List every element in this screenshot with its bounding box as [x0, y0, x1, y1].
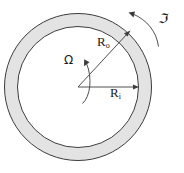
inner-radius-label: Ri [110, 86, 121, 99]
annulus-diagram-svg [0, 0, 184, 173]
rotation-arc-arrowhead [129, 12, 136, 18]
angular-velocity-label: Ω [64, 54, 73, 66]
rotation-symbol-label: ℑ [158, 12, 167, 25]
inner-radius-symbol: R [110, 85, 119, 100]
inner-radius-subscript: i [119, 92, 121, 101]
outer-radius-subscript: o [106, 41, 110, 50]
annulus-figure: Ro Ri Ω ℑ [0, 0, 184, 173]
outer-radius-label: Ro [97, 35, 110, 48]
rotation-arc-path [133, 14, 159, 47]
outer-radius-symbol: R [97, 34, 106, 49]
